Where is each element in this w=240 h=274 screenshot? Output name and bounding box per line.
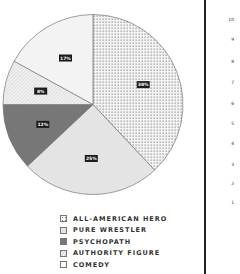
legend-item-all-american-hero: ALL-AMERICAN HERO bbox=[60, 213, 167, 225]
right-axis: 10 9 8 7 6 5 4 3 2 1 bbox=[224, 0, 240, 274]
legend-label: ALL-AMERICAN HERO bbox=[73, 215, 167, 223]
axis-tick: 3 bbox=[231, 162, 234, 167]
legend-item-authority-figure: AUTHORITY FIGURE bbox=[60, 248, 167, 260]
legend-label: PSYCHOPATH bbox=[73, 238, 131, 246]
axis-tick: 1 bbox=[231, 200, 234, 205]
hatched-swatch-icon bbox=[60, 250, 67, 257]
pct-label: 25% bbox=[86, 156, 97, 161]
pct-label: 17% bbox=[60, 56, 71, 61]
axis-tick: 8 bbox=[231, 59, 234, 64]
legend-item-psychopath: PSYCHOPATH bbox=[60, 236, 167, 248]
dark-gray-swatch-icon bbox=[60, 238, 67, 245]
white-swatch-icon bbox=[60, 261, 67, 268]
legend-item-pure-wrestler: PURE WRESTLER bbox=[60, 225, 167, 237]
pct-label: 12% bbox=[37, 122, 48, 127]
axis-tick: 9 bbox=[231, 37, 234, 42]
axis-tick: 4 bbox=[231, 141, 234, 146]
axis-tick: 5 bbox=[231, 121, 234, 126]
axis-tick: 10 bbox=[228, 17, 234, 22]
legend-label: AUTHORITY FIGURE bbox=[73, 249, 160, 257]
legend-label: COMEDY bbox=[73, 261, 110, 269]
light-gray-swatch-icon bbox=[60, 227, 67, 234]
pct-label: 8% bbox=[37, 89, 45, 94]
legend: ALL-AMERICAN HERO PURE WRESTLER PSYCHOPA… bbox=[60, 213, 167, 271]
panel-divider bbox=[204, 0, 206, 274]
axis-tick: 7 bbox=[231, 80, 234, 85]
pie-chart: 38%25%12%8%17% bbox=[0, 0, 200, 205]
legend-label: PURE WRESTLER bbox=[73, 226, 147, 234]
axis-tick: 6 bbox=[231, 101, 234, 106]
legend-item-comedy: COMEDY bbox=[60, 259, 167, 271]
pct-label: 38% bbox=[138, 82, 149, 87]
dotted-swatch-icon bbox=[60, 215, 67, 222]
axis-tick: 2 bbox=[231, 181, 234, 186]
